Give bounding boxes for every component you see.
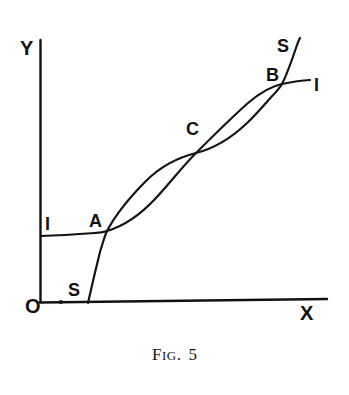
figure-container: Y X O I I S S A C B FIG.5 (0, 0, 349, 395)
plot-svg (0, 0, 349, 395)
indifference-curve-end-label: I (314, 76, 319, 94)
caption-dot: . (177, 345, 182, 364)
x-axis-label: X (300, 303, 313, 323)
caption-smallcaps: IG (162, 348, 177, 363)
indifference-curve-start-label: I (45, 215, 50, 233)
point-a-label: A (89, 212, 102, 230)
caption-number: 5 (188, 345, 197, 364)
caption-prefix: F (152, 345, 162, 364)
supply-curve-end-label: S (277, 37, 289, 55)
y-axis-label: Y (20, 38, 33, 58)
x-axis-tick-dot (59, 300, 63, 304)
x-axis-line (40, 299, 327, 303)
point-c-label: C (186, 120, 199, 138)
indifference-curve (41, 80, 310, 236)
figure-caption: FIG.5 (0, 345, 349, 365)
supply-curve-start-label: S (68, 281, 80, 299)
point-b-label: B (266, 66, 279, 84)
origin-label: O (25, 296, 41, 316)
